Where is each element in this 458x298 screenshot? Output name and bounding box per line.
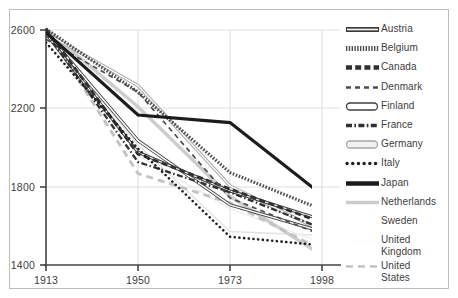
x-tick-label-1913: 1913 <box>21 274 71 286</box>
x-tick-label-1973: 1973 <box>205 274 255 286</box>
y-tick-label-1800: 1800 <box>0 181 35 193</box>
legend-swatch-finland <box>345 97 381 116</box>
legend-item-united-states[interactable]: United States <box>345 257 449 283</box>
legend-swatch-sweden <box>345 212 381 231</box>
legend-swatch-netherlands <box>345 193 381 212</box>
series-group <box>46 25 322 255</box>
legend-label-finland: Finland <box>381 97 415 112</box>
legend-label-united-kingdom: United Kingdom <box>381 231 421 257</box>
legend-item-belgium[interactable]: Belgium <box>345 39 449 58</box>
x-tick-label-1998: 1998 <box>297 274 347 286</box>
x-tick-label-1950: 1950 <box>113 274 163 286</box>
legend-item-austria[interactable]: Austria <box>345 20 449 39</box>
legend-item-france[interactable]: France <box>345 116 449 135</box>
legend-item-denmark[interactable]: Denmark <box>345 78 449 97</box>
legend-label-france: France <box>381 116 413 131</box>
legend-label-italy: Italy <box>381 154 400 169</box>
chart-figure: 2600 2200 1800 1400 1913 1950 1973 1998 … <box>0 0 458 298</box>
legend-item-netherlands[interactable]: Netherlands <box>345 193 449 212</box>
legend-swatch-japan <box>345 174 381 193</box>
legend-item-united-kingdom[interactable]: United Kingdom <box>345 231 449 257</box>
y-tick-label-2200: 2200 <box>0 102 35 114</box>
legend-label-sweden: Sweden <box>381 212 418 227</box>
legend-swatch-denmark <box>345 78 381 97</box>
legend-label-japan: Japan <box>381 174 409 189</box>
legend-item-italy[interactable]: Italy <box>345 154 449 173</box>
gridlines-horizontal <box>46 30 340 187</box>
legend-item-canada[interactable]: Canada <box>345 58 449 77</box>
legend-swatch-canada <box>345 58 381 77</box>
gridlines-vertical <box>138 30 322 265</box>
legend-item-finland[interactable]: Finland <box>345 97 449 116</box>
legend-swatch-germany <box>345 135 381 154</box>
legend-label-netherlands: Netherlands <box>381 193 436 208</box>
legend-item-germany[interactable]: Germany <box>345 135 449 154</box>
legend-swatch-united-states <box>345 257 381 276</box>
legend-swatch-united-kingdom <box>345 231 381 250</box>
legend-item-sweden[interactable]: Sweden <box>345 212 449 231</box>
legend-label-united-states: United States <box>381 257 411 283</box>
legend-label-belgium: Belgium <box>381 39 418 54</box>
legend-item-japan[interactable]: Japan <box>345 174 449 193</box>
chart-legend: Austria Belgium Canada Denmark Finland <box>345 20 449 283</box>
y-tick-label-1400: 1400 <box>0 259 35 271</box>
legend-swatch-belgium <box>345 39 381 58</box>
legend-label-canada: Canada <box>381 58 417 73</box>
legend-label-austria: Austria <box>381 20 413 35</box>
legend-swatch-italy <box>345 154 381 173</box>
legend-swatch-france <box>345 116 381 135</box>
legend-label-denmark: Denmark <box>381 78 422 93</box>
y-axis <box>40 28 46 266</box>
legend-label-germany: Germany <box>381 135 423 150</box>
legend-swatch-austria <box>345 20 381 39</box>
x-axis <box>44 265 341 271</box>
y-tick-label-2600: 2600 <box>0 24 35 36</box>
